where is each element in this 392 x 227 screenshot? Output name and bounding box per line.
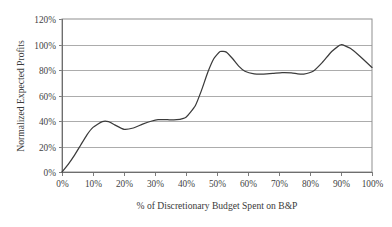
x-tick-label: 80% — [302, 179, 319, 189]
y-axis-tick-labels: 0%20%40%60%80%100%120% — [34, 15, 56, 178]
x-axis-ticks — [63, 172, 373, 176]
x-tick-label: 60% — [240, 179, 257, 189]
y-tick-label: 60% — [39, 92, 56, 102]
x-tick-label: 40% — [178, 179, 195, 189]
x-tick-label: 30% — [147, 179, 164, 189]
x-axis-tick-labels: 0%10%20%30%40%50%60%70%80%90%100% — [56, 179, 383, 189]
x-tick-label: 70% — [271, 179, 288, 189]
x-tick-label: 0% — [56, 179, 69, 189]
y-tick-label: 100% — [34, 41, 56, 51]
x-tick-label: 90% — [333, 179, 350, 189]
y-tick-label: 0% — [44, 168, 57, 178]
plot-background — [62, 19, 372, 172]
chart-figure: 0%20%40%60%80%100%120% 0%10%20%30%40%50%… — [0, 0, 392, 227]
x-tick-label: 20% — [116, 179, 133, 189]
x-axis-title: % of Discretionary Budget Spent on B&P — [137, 200, 298, 211]
x-tick-label: 100% — [362, 179, 384, 189]
y-tick-label: 20% — [39, 143, 56, 153]
y-tick-label: 120% — [34, 15, 56, 25]
x-tick-label: 10% — [85, 179, 102, 189]
y-tick-label: 40% — [39, 117, 56, 127]
y-axis-title: Normalized Expected Profits — [15, 40, 26, 152]
line-chart: 0%20%40%60%80%100%120% 0%10%20%30%40%50%… — [0, 0, 392, 227]
y-tick-label: 80% — [39, 66, 56, 76]
x-tick-label: 50% — [209, 179, 226, 189]
